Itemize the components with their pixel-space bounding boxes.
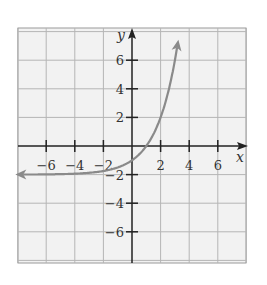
- y-tick-label: 4: [116, 82, 124, 97]
- y-tick-label: 2: [116, 110, 124, 125]
- y-tick-label: 6: [116, 53, 124, 68]
- y-tick-label: −6: [105, 225, 124, 240]
- coordinate-plane: −6−4−2246642−2−4−6 x y: [0, 0, 267, 285]
- x-tick-label: 4: [185, 158, 193, 173]
- x-tick-label: −4: [65, 158, 84, 173]
- x-axis-label: x: [236, 149, 244, 165]
- x-tick-label: −6: [37, 158, 56, 173]
- y-tick-label: −4: [105, 196, 124, 211]
- y-axis-label: y: [116, 27, 126, 43]
- x-tick-label: 6: [214, 158, 222, 173]
- x-tick-label: 2: [156, 158, 164, 173]
